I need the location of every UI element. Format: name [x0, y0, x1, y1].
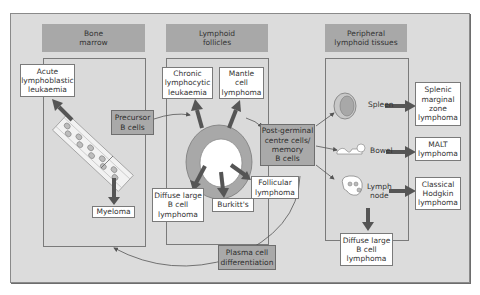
- diffuse-large-b-cell-lymphoma-node-box: Diffuse large B cell lymphoma: [340, 233, 393, 266]
- post-germinal-centre-cells-box: Post-germinal centre cells/ memory B cel…: [260, 124, 315, 166]
- malt-lymphoma-box: MALT lymphoma: [415, 137, 461, 161]
- plasma-cell-differentiation-box: Plasma cell differentiation: [218, 245, 276, 270]
- arrow-to-cll-icon: [191, 99, 203, 111]
- lymph-node-label: Lymph node: [367, 182, 392, 201]
- splenic-marginal-zone-lymphoma-box: Splenic marginal zone lymphoma: [415, 82, 461, 126]
- chronic-lymphocytic-leukaemia-box: Chronic lymphocytic leukaemia: [162, 67, 213, 99]
- spleen-icon: [334, 93, 356, 119]
- myeloma-box: Myeloma: [92, 206, 135, 218]
- follicular-lymphoma-box: Follicular lymphoma: [251, 176, 299, 199]
- diffuse-large-b-cell-lymphoma-box: Diffuse large B cell lymphoma: [152, 188, 204, 222]
- bowel-label: Bowel: [370, 146, 393, 155]
- arrow-to-all-icon: [52, 99, 72, 120]
- bowel-icon: [337, 144, 365, 154]
- acute-lymphoblastic-leukaemia-box: Acute lymphoblastic leukaemia: [20, 64, 75, 97]
- classical-hodgkin-lymphoma-box: Classical Hodgkin lymphoma: [415, 177, 461, 210]
- precursor-to-follicle-arrow-icon: [154, 114, 190, 119]
- arrow-to-dlbcl-node-icon: [362, 222, 374, 231]
- lymph-node-icon: [342, 176, 362, 195]
- spleen-label: Spleen: [368, 100, 394, 109]
- precursor-b-cells-box: Precursor B cells: [111, 110, 154, 135]
- mantle-cell-lymphoma-box: Mantle cell lymphoma: [219, 67, 264, 99]
- burkitts-box: Burkitt's: [212, 198, 254, 212]
